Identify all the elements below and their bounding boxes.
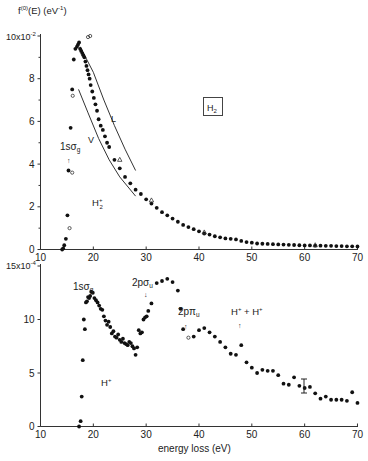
data-point	[146, 309, 150, 313]
data-point	[287, 383, 291, 387]
data-point-open	[187, 336, 190, 339]
data-point	[303, 244, 307, 248]
label-bot-1s: 1sσg	[73, 281, 94, 294]
data-point	[144, 197, 148, 201]
data-point	[80, 395, 84, 399]
data-point	[308, 244, 312, 248]
figure: f(0)(E) (eV-1) 02468 10203040506070 10x1…	[0, 0, 368, 461]
data-point	[107, 320, 111, 324]
data-point	[271, 369, 275, 373]
arrow-2psig: ↓	[144, 291, 148, 298]
data-point	[165, 213, 169, 217]
x-tick-label: 30	[141, 429, 153, 440]
top-data-points	[60, 34, 359, 251]
data-point	[121, 337, 125, 341]
data-point	[100, 308, 104, 312]
data-point	[135, 345, 139, 349]
data-point	[197, 229, 201, 233]
data-point	[128, 181, 132, 185]
data-point	[85, 64, 89, 68]
y-tick-label: 8	[29, 73, 35, 84]
data-point	[239, 239, 243, 243]
data-point	[239, 343, 243, 347]
label-V: V	[88, 135, 94, 145]
data-point	[245, 240, 249, 244]
x-tick-label: 70	[352, 252, 364, 263]
data-point	[97, 117, 101, 121]
data-point	[208, 233, 212, 237]
data-point	[82, 318, 86, 322]
data-point	[324, 395, 328, 399]
curve-L	[80, 47, 135, 171]
data-point-triangle	[149, 198, 153, 202]
data-point	[89, 83, 93, 87]
data-point-triangle	[118, 157, 122, 161]
data-point	[176, 220, 180, 224]
data-point	[79, 419, 83, 423]
data-point-open	[71, 171, 74, 174]
bottom-panel: 0510 10203040506070 15x10-4 1sσg 2pσu ↓ …	[6, 260, 363, 454]
y-tick-label: 6	[29, 116, 35, 127]
data-point	[287, 243, 291, 247]
data-point	[245, 360, 249, 364]
data-point	[292, 375, 296, 379]
top-x-ticks: 10203040506070	[35, 247, 364, 263]
data-point	[155, 281, 159, 285]
data-point	[192, 335, 196, 339]
x-tick-label: 30	[141, 252, 153, 263]
data-point	[134, 188, 138, 192]
data-point	[134, 353, 138, 357]
data-point	[319, 397, 323, 401]
data-point	[92, 96, 96, 100]
data-point	[202, 326, 206, 330]
data-point	[303, 386, 307, 390]
data-point	[334, 244, 338, 248]
data-point	[82, 55, 86, 59]
data-point	[139, 192, 143, 196]
data-point	[62, 243, 66, 247]
data-point	[329, 398, 333, 402]
x-tick-label: 60	[299, 429, 311, 440]
data-point	[350, 244, 354, 248]
data-point	[94, 102, 98, 106]
data-point	[85, 299, 89, 303]
data-point	[334, 398, 338, 402]
data-point	[84, 60, 88, 64]
data-point	[350, 390, 354, 394]
data-point	[171, 280, 175, 284]
arrow-top-1s: ↑	[67, 157, 71, 164]
data-point	[83, 327, 87, 331]
data-point	[145, 314, 149, 318]
data-point	[297, 243, 301, 247]
data-point	[140, 330, 144, 334]
data-point	[271, 242, 275, 246]
label-top-h2plus: H+2	[92, 197, 103, 210]
data-point	[64, 237, 68, 241]
data-point	[88, 294, 92, 298]
data-point	[77, 425, 81, 429]
data-point	[66, 213, 70, 217]
y-tick-label: 10	[23, 314, 35, 325]
data-point	[176, 289, 180, 293]
label-bot-2ppi: 2pπu	[178, 306, 200, 318]
data-point	[282, 382, 286, 386]
data-point	[165, 277, 169, 281]
data-point	[218, 235, 222, 239]
data-point	[276, 373, 280, 377]
data-point	[102, 314, 106, 318]
label-bot-2psig: 2pσu	[132, 277, 153, 289]
data-point	[150, 302, 154, 306]
data-point	[297, 384, 301, 388]
data-point	[113, 158, 117, 162]
data-point	[95, 109, 99, 113]
x-tick-label: 20	[88, 429, 100, 440]
data-point	[329, 244, 333, 248]
data-point	[324, 244, 328, 248]
label-bot-hh: H+ + H+	[231, 306, 263, 317]
bottom-data-points	[77, 277, 359, 428]
data-point	[313, 391, 317, 395]
h2-legend-label: H2	[207, 103, 218, 114]
data-point	[105, 141, 109, 145]
data-point	[345, 244, 349, 248]
x-tick-label: 60	[299, 252, 311, 263]
